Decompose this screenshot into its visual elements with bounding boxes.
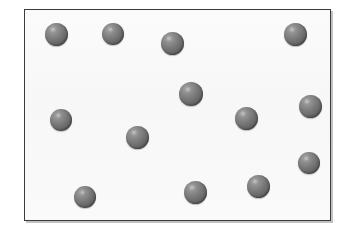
gas-particle — [50, 109, 72, 131]
diagram-canvas — [0, 0, 353, 234]
gas-particle — [179, 82, 203, 106]
gas-particle — [247, 175, 270, 198]
gas-particle — [74, 186, 96, 208]
particle-layer — [25, 10, 330, 220]
gas-particle — [126, 126, 149, 149]
gas-container-box — [24, 9, 331, 221]
gas-particle — [161, 32, 184, 55]
gas-particle — [235, 107, 258, 130]
gas-particle — [102, 23, 124, 45]
gas-particle — [284, 23, 307, 46]
gas-particle — [299, 95, 322, 118]
gas-particle — [298, 152, 320, 174]
gas-particle — [184, 181, 207, 204]
gas-particle — [45, 23, 68, 46]
